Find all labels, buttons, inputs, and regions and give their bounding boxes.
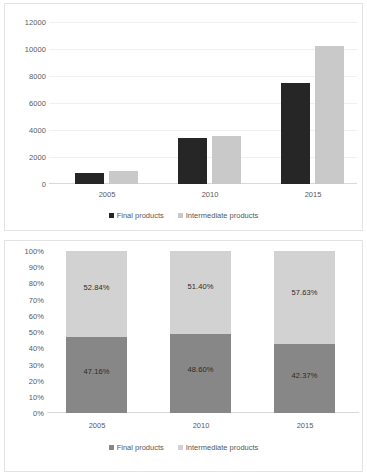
- x-tick-label: 2010: [202, 190, 219, 199]
- segment-intermediate-2005: 52.84%: [66, 251, 127, 337]
- y-tick-label: 40%: [29, 344, 44, 353]
- y-tick-label: 0: [42, 180, 46, 189]
- legend-swatch-icon: [178, 445, 183, 450]
- bar-final-2005: [75, 173, 104, 184]
- stack-2015: 57.63% 42.37%: [274, 251, 335, 413]
- segment-value-label: 51.40%: [170, 282, 231, 291]
- y-tick-label: 70%: [29, 296, 44, 305]
- y-tick-label: 30%: [29, 361, 44, 370]
- bottom-chart-panel: 100% 90% 80% 70% 60% 50% 40% 30% 20% 10%…: [4, 240, 363, 472]
- y-tick-label: 0%: [33, 409, 44, 418]
- bottom-chart-plot-area: 52.84% 47.16% 51.40% 48.60% 57.63%: [47, 251, 359, 413]
- legend-label: Intermediate products: [186, 443, 259, 452]
- bar-final-2015: [281, 83, 310, 184]
- y-tick-label: 12000: [25, 18, 46, 27]
- legend-item-intermediate-products[interactable]: Intermediate products: [178, 443, 259, 452]
- x-tick-label: 2015: [297, 421, 314, 430]
- segment-intermediate-2010: 51.40%: [170, 251, 231, 334]
- top-chart-legend: Final products Intermediate products: [5, 211, 362, 220]
- y-tick-label: 6000: [29, 99, 46, 108]
- legend-label: Final products: [117, 211, 164, 220]
- legend-item-final-products[interactable]: Final products: [109, 211, 164, 220]
- x-tick-label: 2005: [99, 190, 116, 199]
- legend-swatch-icon: [109, 445, 114, 450]
- y-tick-label: 4000: [29, 126, 46, 135]
- legend-label: Intermediate products: [186, 211, 259, 220]
- x-tick-label: 2010: [193, 421, 210, 430]
- bar-intermediate-2015: [315, 46, 344, 184]
- bar-final-2010: [178, 138, 207, 184]
- y-tick-label: 20%: [29, 377, 44, 386]
- bottom-chart-legend: Final products Intermediate products: [5, 443, 362, 452]
- top-chart-panel: 12000 10000 8000 6000 4000 2000 0: [4, 3, 363, 231]
- legend-item-intermediate-products[interactable]: Intermediate products: [178, 211, 259, 220]
- y-tick-label: 60%: [29, 312, 44, 321]
- segment-intermediate-2015: 57.63%: [274, 251, 335, 344]
- figure-page: 12000 10000 8000 6000 4000 2000 0: [0, 0, 367, 476]
- x-tick-label: 2005: [89, 421, 106, 430]
- segment-value-label: 42.37%: [274, 371, 335, 380]
- segment-value-label: 52.84%: [66, 283, 127, 292]
- y-tick-label: 100%: [24, 247, 44, 256]
- stack-2010: 51.40% 48.60%: [170, 251, 231, 413]
- bar-intermediate-2010: [212, 136, 241, 184]
- top-chart-plot-area: [49, 22, 357, 184]
- y-tick-label: 80%: [29, 279, 44, 288]
- y-tick-label: 2000: [29, 153, 46, 162]
- legend-swatch-icon: [109, 213, 114, 218]
- x-tick-label: 2015: [305, 190, 322, 199]
- legend-swatch-icon: [178, 213, 183, 218]
- segment-value-label: 57.63%: [274, 288, 335, 297]
- stack-2005: 52.84% 47.16%: [66, 251, 127, 413]
- segment-final-2010: 48.60%: [170, 334, 231, 413]
- top-chart-bars: [49, 22, 357, 184]
- legend-label: Final products: [117, 443, 164, 452]
- y-tick-label: 10%: [29, 393, 44, 402]
- segment-value-label: 47.16%: [66, 367, 127, 376]
- y-tick-label: 8000: [29, 72, 46, 81]
- bar-intermediate-2005: [109, 171, 138, 184]
- y-tick-label: 50%: [29, 328, 44, 337]
- segment-final-2005: 47.16%: [66, 337, 127, 413]
- y-tick-label: 10000: [25, 45, 46, 54]
- segment-value-label: 48.60%: [170, 365, 231, 374]
- legend-item-final-products[interactable]: Final products: [109, 443, 164, 452]
- segment-final-2015: 42.37%: [274, 344, 335, 413]
- y-tick-label: 90%: [29, 263, 44, 272]
